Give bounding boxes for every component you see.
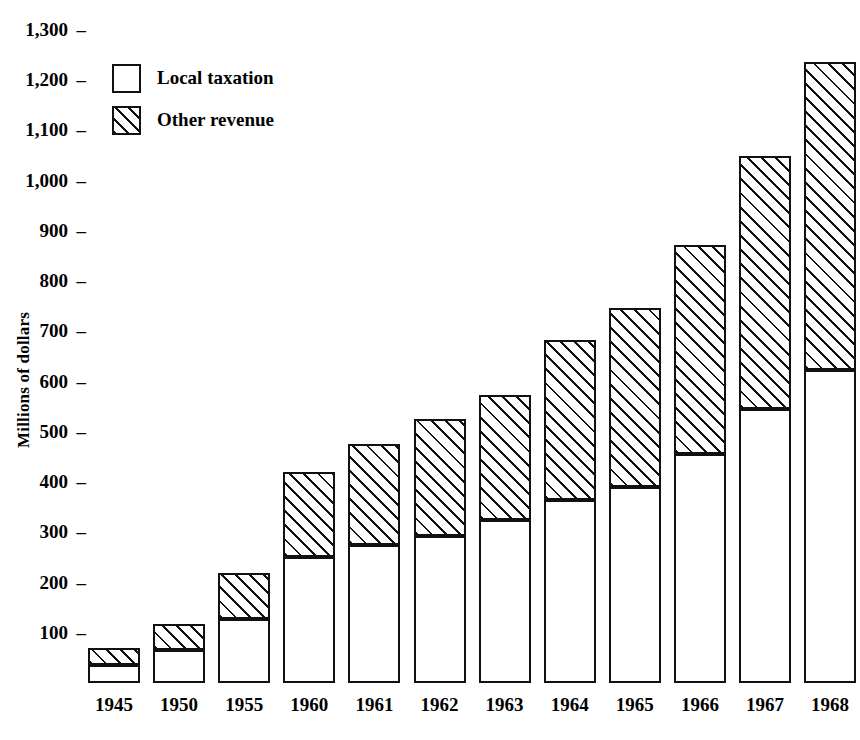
bar-1965 — [609, 308, 661, 683]
bar-segment-local-taxation — [609, 487, 661, 683]
x-axis-tick-label: 1962 — [408, 692, 472, 718]
bar-1968 — [804, 62, 856, 683]
bar-segment-local-taxation — [348, 545, 400, 683]
bar-1967 — [739, 156, 791, 683]
bar-1962 — [414, 419, 466, 683]
bar-segment-local-taxation — [218, 619, 270, 683]
bar-segment-local-taxation — [739, 409, 791, 683]
bar-segment-other-revenue — [218, 573, 270, 618]
bar-segment-local-taxation — [283, 557, 335, 683]
bar-segment-other-revenue — [544, 340, 596, 500]
x-axis-tick-label: 1945 — [82, 692, 146, 718]
x-axis-tick-label: 1964 — [538, 692, 602, 718]
bar-segment-local-taxation — [414, 536, 466, 683]
x-axis-tick-label: 1967 — [733, 692, 797, 718]
bar-1955 — [218, 573, 270, 683]
legend-swatch-hatched — [112, 106, 141, 135]
x-axis-tick-label: 1961 — [342, 692, 406, 718]
bar-segment-other-revenue — [88, 648, 140, 665]
bar-segment-local-taxation — [544, 500, 596, 683]
chart-legend: Local taxationOther revenue — [112, 60, 274, 144]
bar-segment-local-taxation — [88, 665, 140, 683]
bar-segment-local-taxation — [674, 454, 726, 683]
x-axis-tick-label: 1950 — [147, 692, 211, 718]
bar-segment-other-revenue — [804, 62, 856, 370]
bar-1960 — [283, 472, 335, 683]
legend-swatch-white — [112, 64, 141, 93]
bar-segment-local-taxation — [479, 520, 531, 683]
legend-label: Local taxation — [157, 67, 274, 89]
x-axis-tick-label: 1966 — [668, 692, 732, 718]
x-axis-tick-label: 1960 — [277, 692, 341, 718]
bar-segment-local-taxation — [804, 370, 856, 683]
bar-segment-local-taxation — [153, 650, 205, 683]
bar-segment-other-revenue — [479, 395, 531, 520]
bar-segment-other-revenue — [348, 444, 400, 545]
legend-label: Other revenue — [157, 109, 274, 131]
bar-1961 — [348, 444, 400, 683]
bar-segment-other-revenue — [153, 624, 205, 650]
legend-item: Local taxation — [112, 60, 274, 96]
bar-1963 — [479, 395, 531, 683]
x-axis-tick-label: 1968 — [798, 692, 860, 718]
bar-1945 — [88, 648, 140, 683]
legend-item: Other revenue — [112, 102, 274, 138]
bar-segment-other-revenue — [739, 156, 791, 409]
bar-segment-other-revenue — [283, 472, 335, 557]
bar-segment-other-revenue — [414, 419, 466, 536]
bar-segment-other-revenue — [674, 245, 726, 455]
x-axis-tick-label: 1955 — [212, 692, 276, 718]
bar-1964 — [544, 340, 596, 683]
x-axis-tick-label: 1963 — [473, 692, 537, 718]
bar-1966 — [674, 245, 726, 683]
bar-1950 — [153, 624, 205, 683]
x-axis-tick-label: 1965 — [603, 692, 667, 718]
bar-segment-other-revenue — [609, 308, 661, 487]
